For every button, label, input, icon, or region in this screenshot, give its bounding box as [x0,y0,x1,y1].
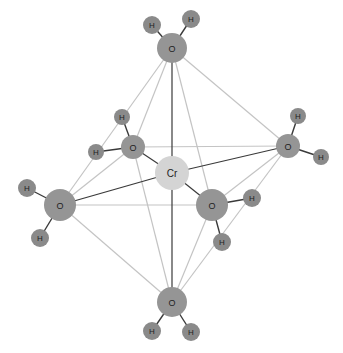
atom-h-front-1: H [243,189,261,207]
atom-label: H [188,15,194,24]
atom-label: H [219,238,225,247]
atom-label: H [93,148,99,157]
atom-o-back: O [121,135,145,159]
atom-h-top-2: H [182,10,200,28]
atom-o-left: O [44,189,76,221]
atom-h-front-2: H [213,233,231,251]
atom-label: H [24,184,30,193]
atom-label: H [149,327,155,336]
atom-label: Cr [167,168,178,179]
atom-label: H [318,153,324,162]
atom-label: O [56,201,63,211]
atom-o-front: O [196,189,228,221]
atom-h-bottom-1: H [143,322,161,340]
atom-h-back-2: H [88,144,104,160]
atom-label: H [149,21,155,30]
cr-o-bond [60,173,172,205]
octahedron-edge [133,146,288,147]
atom-h-left-2: H [31,229,49,247]
octahedron-edge [133,48,172,147]
atom-label: H [188,328,194,337]
atom-o-right: O [276,134,300,158]
atom-o-top: O [157,33,187,63]
atom-h-bottom-2: H [182,323,200,341]
atom-h-left-1: H [18,179,36,197]
atom-label: O [284,142,291,152]
atom-label: O [168,44,175,54]
atom-h-top-1: H [143,16,161,34]
octahedron-edge [172,48,288,146]
atom-cr: Cr [155,156,189,190]
atom-h-right-1: H [290,108,306,124]
atom-h-back-1: H [114,109,130,125]
atom-label: O [168,298,175,308]
atom-label: H [119,113,125,122]
atom-label: O [129,143,136,153]
atoms: HHHHHHHHHHHHOOOOOOCr [18,10,329,341]
octahedron-edge [60,48,172,205]
atom-label: H [295,112,301,121]
atom-h-right-2: H [313,149,329,165]
atom-o-bottom: O [157,287,187,317]
octahedron-edge [60,205,172,302]
atom-label: H [37,234,43,243]
atom-label: O [208,201,215,211]
atom-label: H [249,194,255,203]
molecule-diagram: Hexaaquachromium complex [Cr(H2O)6] octa… [0,0,343,353]
